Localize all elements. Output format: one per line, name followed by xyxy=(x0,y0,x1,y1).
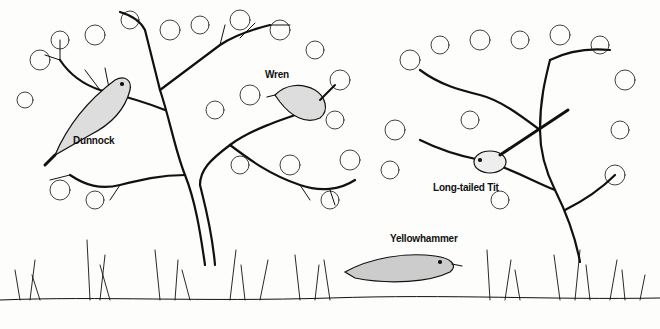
grass xyxy=(15,240,645,300)
label-yellowhammer: Yellowhammer xyxy=(390,233,458,244)
right-tree xyxy=(420,49,615,262)
label-long-tailed-tit: Long-tailed Tit xyxy=(433,182,499,193)
hedgerow-scene xyxy=(0,0,660,329)
dunnock-bird xyxy=(45,78,130,165)
yellowhammer-bird xyxy=(345,255,462,282)
long-tailed-tit-bird xyxy=(474,110,568,173)
wren-bird xyxy=(267,85,335,120)
label-dunnock: Dunnock xyxy=(73,135,114,146)
bird-illustration: Dunnock Wren Long-tailed Tit Yellowhamme… xyxy=(0,0,660,329)
label-wren: Wren xyxy=(265,69,289,80)
right-tree-leaves xyxy=(381,25,635,209)
